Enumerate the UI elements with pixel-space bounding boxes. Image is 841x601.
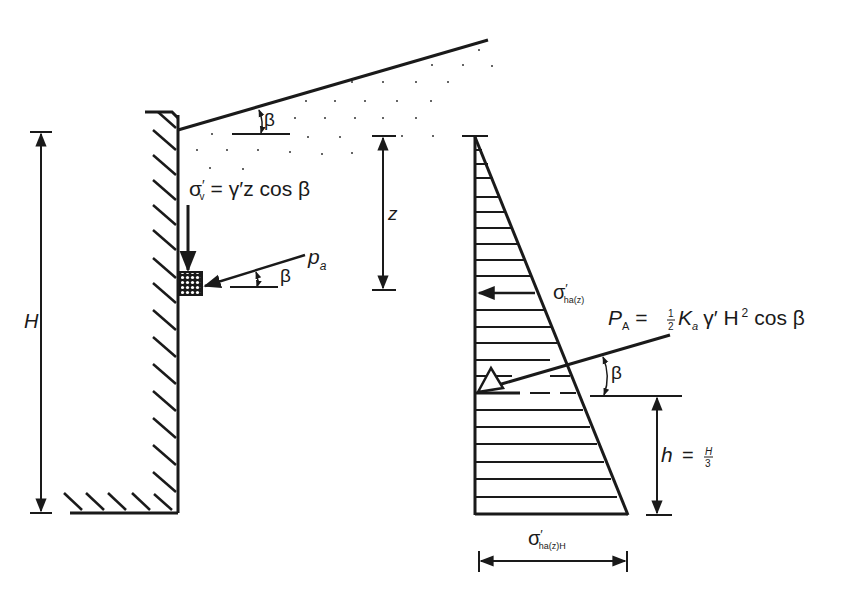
beta-top-label: β — [264, 109, 275, 130]
beta-pa-label: β — [280, 265, 291, 286]
soil-element: β pa σ′v= γ′z cos β — [180, 177, 327, 295]
sigma-ha-z-label: σ′ha(z) — [553, 281, 584, 305]
PA-half-den: 2 — [668, 321, 674, 332]
retaining-wall — [64, 112, 178, 513]
beta-PA-label: β — [611, 362, 622, 383]
pa-label: pa — [307, 245, 327, 273]
sigma-base-label: σ′ha(z)H — [528, 527, 566, 551]
H-label: H — [24, 310, 39, 332]
h-label: h — [661, 443, 673, 466]
soil-dots — [196, 49, 493, 170]
backfill-surface: β — [178, 40, 493, 170]
resultant-PA-arrow: β — [478, 335, 682, 396]
h-num: H — [705, 446, 713, 457]
sigma-v-equation: σ′v= γ′z cos β — [189, 177, 310, 202]
PA-equation-rest: Kaγ′ H2cos β — [678, 306, 805, 332]
pressure-distribution — [462, 136, 628, 515]
z-label: z — [387, 203, 398, 224]
PA-equation: PA= — [608, 306, 648, 332]
h-den: 3 — [705, 458, 711, 469]
h-eq: = — [682, 444, 694, 466]
earth-pressure-diagram: β β pa σ′v= γ′z cos β H z — [0, 0, 841, 601]
base-pressure-dimension — [479, 551, 627, 572]
PA-half-num: 1 — [668, 308, 674, 319]
